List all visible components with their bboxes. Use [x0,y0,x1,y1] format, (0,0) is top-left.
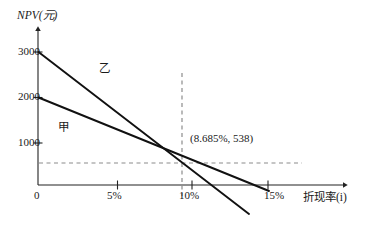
y-tick-label-3000: 3000 [18,46,40,57]
npv-discount-rate-chart: NPV(元) 3000 2000 1000 0 5% 10% 15% 折现率(i… [0,0,386,232]
x-tick-label-10pct: 10% [179,190,199,201]
y-axis-title-text: NPV(元) [17,9,57,21]
y-tick-label-2000: 2000 [18,91,40,102]
curve-label-jia: 甲 [58,122,69,134]
y-axis-title: NPV(元) [17,10,57,22]
x-tick-label-0: 0 [34,190,40,201]
curve-label-yi: 乙 [99,63,110,75]
x-axis-title: 折现率(i) [303,192,347,204]
x-tick-label-15pct: 15% [264,190,284,201]
intersection-annotation: (8.685%, 538) [190,133,253,144]
x-axis-title-text: 折现率(i) [303,191,347,203]
y-tick-label-1000: 1000 [18,137,40,148]
curve-jia [39,98,270,192]
x-tick-label-5pct: 5% [107,190,122,201]
